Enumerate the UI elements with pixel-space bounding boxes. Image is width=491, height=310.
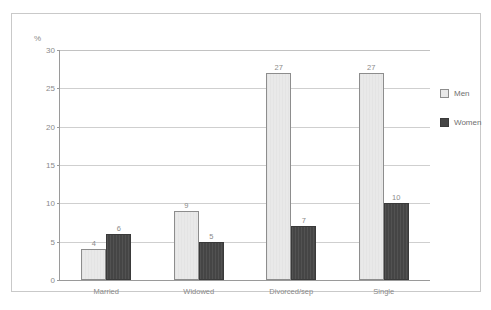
y-tick-label-10: 10 [46,199,55,208]
legend-item-women[interactable]: Women [440,118,481,127]
y-tick-label-15: 15 [46,161,55,170]
bar-men-widowed[interactable]: 9 [174,211,199,280]
light-gray-swatch [440,89,449,98]
bar-women-married[interactable]: 6 [106,234,131,280]
y-tick-label-20: 20 [46,122,55,131]
bar-value-label: 6 [117,224,121,233]
x-category-label: Married [60,287,153,296]
legend-item-label: Women [454,118,481,127]
bar-women-single[interactable]: 10 [384,203,409,280]
y-tick-label-25: 25 [46,84,55,93]
bar-men-divorced-sep[interactable]: 27 [266,73,291,280]
bar-value-label: 27 [367,63,375,72]
bar-group: 95Widowed [153,50,246,280]
bar-group: 2710Single [338,50,431,280]
bar-value-label: 27 [275,63,283,72]
bar-value-label: 10 [392,193,400,202]
legend-item-men[interactable]: Men [440,89,481,98]
x-category-label: Single [338,287,431,296]
bar-group: 46Married [60,50,153,280]
legend-item-label: Men [454,89,470,98]
x-category-label: Divorced/sep [245,287,338,296]
y-tick-label-5: 5 [51,237,55,246]
bar-value-label: 5 [209,232,213,241]
bar-group: 277Divorced/sep [245,50,338,280]
bar-value-label: 7 [302,216,306,225]
y-tick-label-30: 30 [46,46,55,55]
chart-figure-frame: % 051015202530 46Married95Widowed277Divo… [11,13,481,292]
bars-layer: 46Married95Widowed277Divorced/sep2710Sin… [60,50,430,280]
bar-group-bars: 2710 [338,50,431,280]
bar-men-single[interactable]: 27 [359,73,384,280]
chart-legend: MenWomen [440,89,481,147]
plot-area: 051015202530 46Married95Widowed277Divorc… [59,50,430,281]
bar-value-label: 9 [184,201,188,210]
bar-group-bars: 46 [60,50,153,280]
bar-group-bars: 277 [245,50,338,280]
bar-men-married[interactable]: 4 [81,249,106,280]
bar-women-widowed[interactable]: 5 [199,242,224,280]
y-axis-unit-label: % [34,34,41,43]
bar-value-label: 4 [92,239,96,248]
y-tick-label-0: 0 [51,276,55,285]
x-category-label: Widowed [153,287,246,296]
bar-group-bars: 95 [153,50,246,280]
bar-women-divorced-sep[interactable]: 7 [291,226,316,280]
y-tick-mark-0 [57,280,60,281]
dark-gray-swatch [440,118,449,127]
